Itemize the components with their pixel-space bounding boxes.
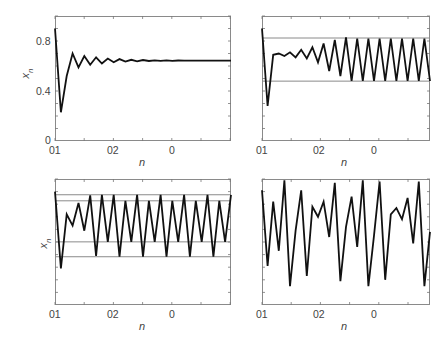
xtick-label: 0: [371, 309, 377, 320]
x-axis-label: n: [341, 320, 347, 332]
ytick-label: 0.8: [36, 36, 51, 47]
plot-area: [262, 179, 430, 305]
y-axis-label: xn: [37, 239, 52, 249]
x-axis-label: n: [139, 156, 145, 168]
y-axis-label-main: x: [37, 243, 49, 249]
xtick-label: 0: [371, 145, 377, 156]
y-axis-label-sub: n: [44, 239, 53, 243]
xtick-label: 01: [256, 145, 268, 156]
xtick-label: 02: [313, 309, 325, 320]
xtick-label: 02: [107, 145, 119, 156]
series-line: [55, 29, 231, 113]
y-axis-label: xn: [19, 69, 34, 79]
xtick-label: 02: [107, 309, 119, 320]
x-axis-label: n: [341, 156, 347, 168]
y-axis-label-main: x: [19, 73, 31, 79]
xtick-label: 01: [49, 309, 61, 320]
plot-area: [55, 179, 231, 305]
xtick-label: 01: [49, 145, 61, 156]
xtick-label: 01: [256, 309, 268, 320]
series-line: [262, 180, 430, 286]
x-axis-label: n: [139, 320, 145, 332]
xtick-label: 0: [169, 309, 175, 320]
plot-area: [262, 16, 430, 141]
xtick-label: 02: [313, 145, 325, 156]
ytick-label: 0.4: [36, 86, 51, 97]
xtick-label: 0: [169, 145, 175, 156]
y-axis-label-sub: n: [26, 69, 35, 73]
plot-area: [55, 16, 231, 141]
series-line: [262, 29, 430, 107]
